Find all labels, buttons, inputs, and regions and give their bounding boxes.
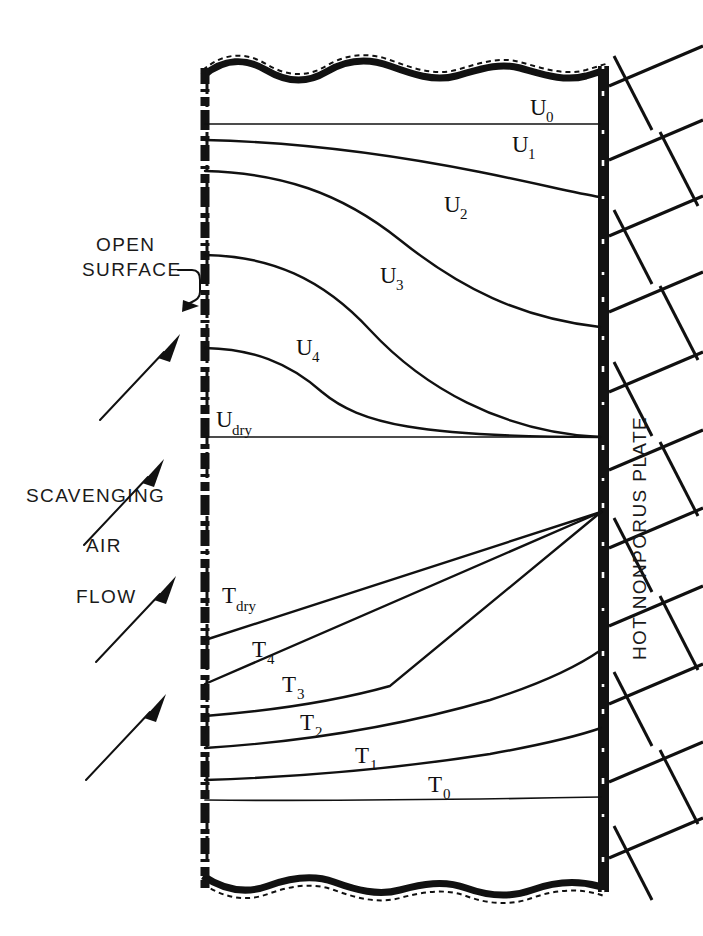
label-u0: U 0 [530,95,554,125]
bottom-torn-edge [203,876,606,903]
label-t2: T 2 [300,710,323,740]
curve-u2 [205,171,600,327]
figure-canvas: HOT NONPORUS PLATE U 0 U 1 U 2 U [0,0,703,936]
svg-text:0: 0 [443,786,451,802]
diagram-svg: HOT NONPORUS PLATE U 0 U 1 U 2 U [0,0,703,936]
svg-text:1: 1 [528,146,536,162]
label-udry: U dry [216,407,252,438]
curve-u1 [205,140,600,197]
label-u3: U 3 [380,263,404,293]
curve-t0 [205,797,601,800]
svg-text:4: 4 [312,349,320,365]
velocity-labels: U 0 U 1 U 2 U 3 U 4 U dry [216,95,554,438]
label-u4: U 4 [296,335,320,365]
plate-hatching [609,46,703,900]
label-u1: U 1 [512,132,536,162]
open-surface-label-line2: SURFACE [82,259,182,280]
svg-text:3: 3 [297,686,305,702]
svg-text:2: 2 [460,206,468,222]
svg-text:T: T [252,637,266,662]
curve-t1 [205,728,601,780]
hot-nonporous-plate-wall [598,66,609,892]
flow-label: FLOW [76,586,137,607]
flow-arrow-1 [100,334,180,420]
scavenging-air-flow-labels: SCAVENGING AIR FLOW [26,485,165,607]
scavenging-label: SCAVENGING [26,485,165,506]
top-torn-edge [203,55,606,80]
svg-text:2: 2 [315,724,323,740]
label-u2: U 2 [444,192,468,222]
svg-text:4: 4 [267,651,275,667]
svg-text:dry: dry [236,598,256,614]
svg-text:dry: dry [232,422,252,438]
flow-arrow-4 [86,694,166,780]
plate-label-group: HOT NONPORUS PLATE [629,416,650,660]
svg-text:U: U [530,95,547,120]
svg-text:U: U [444,192,461,217]
curve-t3 [205,512,601,716]
curve-tdry [205,512,601,640]
svg-text:U: U [296,335,313,360]
flow-arrows [84,334,180,780]
svg-text:T: T [355,743,369,768]
label-t0: T 0 [428,772,451,802]
svg-text:1: 1 [370,757,378,773]
svg-text:0: 0 [546,109,554,125]
plate-label: HOT NONPORUS PLATE [629,416,650,660]
svg-text:3: 3 [396,277,404,293]
svg-text:T: T [428,772,442,797]
svg-text:T: T [222,583,236,608]
open-surface-label-line1: OPEN [96,234,155,255]
svg-text:U: U [216,407,233,432]
label-tdry: T dry [222,583,256,614]
temperature-labels: T dry T 4 T 3 T 2 T 1 T 0 [222,583,451,802]
label-t3: T 3 [282,672,305,702]
open-surface-callout: OPEN SURFACE [82,234,200,312]
svg-text:U: U [380,263,397,288]
curve-t2 [205,650,601,748]
svg-text:U: U [512,132,529,157]
open-surface-boundary [205,68,207,888]
svg-text:T: T [282,672,296,697]
svg-text:T: T [300,710,314,735]
